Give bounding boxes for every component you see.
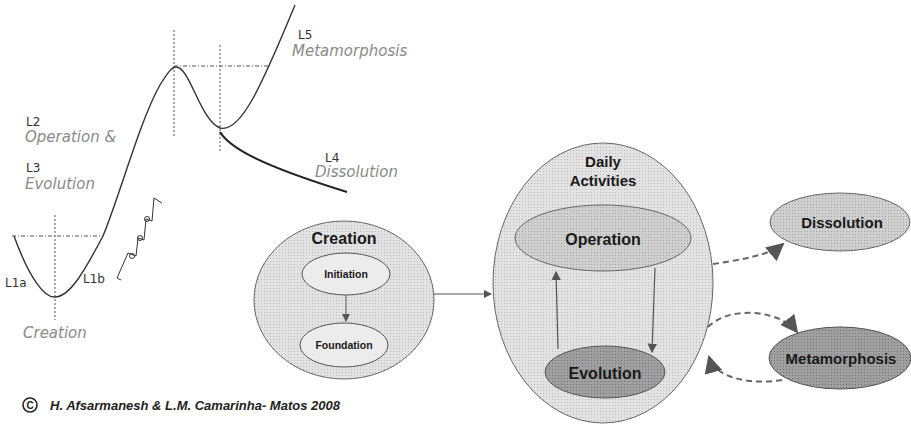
metamorphosis-node: Metamorphosis bbox=[769, 327, 911, 389]
arrow-daily-to-dissolution bbox=[713, 244, 783, 264]
copyright: C H. Afsarmanesh & L.M. Camarinha- Matos… bbox=[23, 398, 341, 413]
daily-title-1: Daily bbox=[585, 153, 622, 170]
initiation-label: Initiation bbox=[324, 268, 368, 280]
dissolution-label: Dissolution bbox=[801, 214, 883, 231]
label-metamorphosis-curve: Metamorphosis bbox=[292, 42, 407, 60]
svg-text:C: C bbox=[26, 400, 33, 411]
foundation-label: Foundation bbox=[315, 339, 372, 351]
metamorphosis-label: Metamorphosis bbox=[786, 350, 897, 367]
label-creation-curve: Creation bbox=[23, 324, 87, 342]
arrow-daily-to-metamorphosis bbox=[708, 313, 797, 332]
creation-node: Creation Initiation Foundation bbox=[254, 221, 434, 379]
lifecycle-diagram: L1a L1b Creation L2 Operation & L3 Evolu… bbox=[0, 0, 911, 427]
daily-title-2: Activities bbox=[570, 172, 637, 189]
label-l1a: L1a bbox=[5, 276, 27, 290]
creation-title: Creation bbox=[312, 230, 377, 247]
label-evolution-curve: Evolution bbox=[25, 175, 95, 193]
label-dissolution-curve: Dissolution bbox=[315, 163, 398, 181]
evolution-label: Evolution bbox=[569, 365, 642, 382]
daily-activities-node: Daily Activities Operation Evolution bbox=[493, 143, 713, 423]
dissolution-node: Dissolution bbox=[770, 193, 910, 251]
operation-label: Operation bbox=[565, 231, 641, 248]
label-l1b: L1b bbox=[83, 272, 105, 286]
label-l3: L3 bbox=[26, 161, 40, 175]
label-l2: L2 bbox=[26, 115, 40, 129]
label-operation-curve: Operation & bbox=[25, 128, 116, 146]
label-l5: L5 bbox=[298, 28, 312, 42]
copyright-text: H. Afsarmanesh & L.M. Camarinha- Matos 2… bbox=[50, 398, 341, 413]
